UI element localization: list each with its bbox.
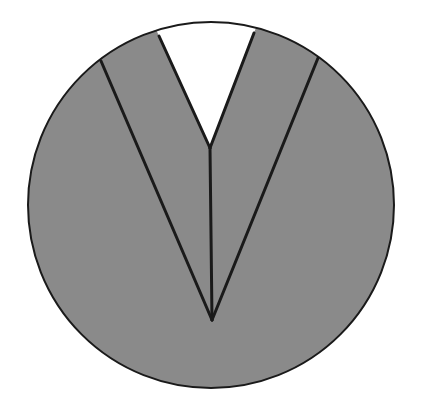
center-vertical-line (210, 148, 212, 320)
circle-diagram (0, 0, 425, 409)
